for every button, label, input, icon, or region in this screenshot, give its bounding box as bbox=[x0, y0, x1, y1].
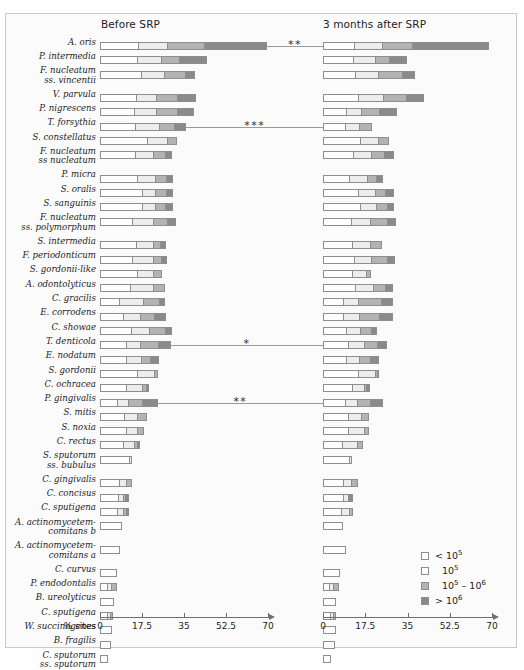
bar-segment bbox=[333, 583, 339, 591]
stacked-bar bbox=[323, 123, 372, 131]
stacked-bar bbox=[100, 123, 186, 131]
bar-segment bbox=[353, 56, 375, 64]
bar-segment bbox=[361, 413, 368, 421]
bar-segment bbox=[341, 508, 349, 516]
axis-arrow-icon bbox=[269, 614, 275, 620]
bar-segment bbox=[155, 175, 166, 183]
significance-asterisks: ** bbox=[233, 398, 247, 406]
bar-segment bbox=[100, 399, 117, 407]
bar-segment bbox=[379, 108, 397, 116]
stacked-bar bbox=[323, 137, 389, 145]
species-label-line2: comitans b bbox=[0, 527, 96, 537]
bar-segment bbox=[100, 370, 137, 378]
bar-segment bbox=[348, 413, 361, 421]
bar-segment bbox=[366, 384, 370, 392]
stacked-bar bbox=[323, 175, 383, 183]
stacked-bar bbox=[100, 108, 194, 116]
bar-segment bbox=[165, 151, 172, 159]
bar-segment bbox=[100, 583, 107, 591]
significance-connector: ** bbox=[267, 42, 323, 50]
bar-segment bbox=[125, 494, 129, 502]
bar-segment bbox=[349, 175, 367, 183]
stacked-bar bbox=[323, 270, 371, 278]
bar-segment bbox=[323, 203, 360, 211]
bar-segment bbox=[100, 479, 119, 487]
axis-tick bbox=[365, 613, 366, 617]
legend-swatch bbox=[421, 567, 429, 575]
plot-after-srp bbox=[323, 40, 492, 608]
bar-segment bbox=[167, 218, 175, 226]
bar-segment bbox=[364, 427, 369, 435]
species-label: F. periodonticum bbox=[0, 251, 96, 261]
bar-segment bbox=[323, 494, 343, 502]
bar-segment bbox=[100, 522, 122, 530]
bar-segment bbox=[100, 384, 126, 392]
bar-segment bbox=[345, 399, 357, 407]
bar-segment bbox=[389, 56, 407, 64]
bar-segment bbox=[370, 218, 387, 226]
bar-segment bbox=[385, 189, 393, 197]
bar-segment bbox=[371, 256, 387, 264]
bar-segment bbox=[323, 298, 343, 306]
bar-segment bbox=[100, 137, 147, 145]
stacked-bar bbox=[100, 203, 173, 211]
species-label: S. noxia bbox=[0, 423, 96, 433]
bar-segment bbox=[384, 151, 394, 159]
bar-segment bbox=[375, 189, 386, 197]
bar-segment bbox=[343, 313, 359, 321]
bar-segment bbox=[161, 256, 167, 264]
bar-segment bbox=[323, 456, 349, 464]
species-label: C. sputigena bbox=[0, 503, 96, 513]
bar-segment bbox=[100, 313, 123, 321]
bar-segment bbox=[377, 341, 387, 349]
bar-segment bbox=[323, 356, 346, 364]
bar-segment bbox=[136, 241, 153, 249]
bar-segment bbox=[136, 94, 156, 102]
bar-segment bbox=[323, 175, 349, 183]
bar-segment bbox=[142, 203, 155, 211]
species-label: S. constellatus bbox=[0, 133, 96, 143]
bar-segment bbox=[117, 399, 128, 407]
x-axis-before: 017.53552.570 bbox=[100, 617, 270, 643]
species-label-line2: ss nucleatum bbox=[0, 156, 96, 166]
bar-segment bbox=[323, 137, 360, 145]
axis-line bbox=[323, 617, 495, 618]
bar-segment bbox=[158, 341, 171, 349]
bar-segment bbox=[387, 256, 395, 264]
bar-segment bbox=[381, 298, 393, 306]
bar-segment bbox=[345, 123, 359, 131]
bar-segment bbox=[147, 137, 167, 145]
axis-tick-label: 70 bbox=[486, 621, 497, 631]
species-label: C. rectus bbox=[0, 437, 96, 447]
stacked-bar bbox=[100, 370, 158, 378]
bar-segment bbox=[126, 356, 140, 364]
bar-segment bbox=[100, 175, 137, 183]
bar-segment bbox=[360, 327, 371, 335]
bar-segment bbox=[358, 370, 375, 378]
bar-segment bbox=[323, 479, 343, 487]
bar-segment bbox=[366, 270, 371, 278]
species-label: S. gordonii bbox=[0, 366, 96, 376]
species-label: F. nucleatumss. polymorphum bbox=[0, 213, 96, 232]
bar-segment bbox=[342, 441, 356, 449]
bar-segment bbox=[349, 494, 353, 502]
stacked-bar bbox=[323, 284, 393, 292]
species-label: T. forsythia bbox=[0, 118, 96, 128]
stacked-bar bbox=[100, 56, 207, 64]
stacked-bar bbox=[323, 313, 393, 321]
panel-title-after: 3 months after SRP bbox=[323, 18, 426, 30]
stacked-bar bbox=[100, 508, 129, 516]
significance-connector: * bbox=[171, 341, 323, 349]
bar-segment bbox=[323, 399, 345, 407]
stacked-bar bbox=[323, 341, 387, 349]
species-label: P. gingivalis bbox=[0, 394, 96, 404]
bar-segment bbox=[143, 298, 159, 306]
stacked-bar bbox=[100, 284, 165, 292]
bar-segment bbox=[137, 370, 154, 378]
bar-segment bbox=[360, 203, 376, 211]
bar-segment bbox=[135, 123, 159, 131]
bar-segment bbox=[100, 341, 126, 349]
bar-segment bbox=[126, 384, 142, 392]
bar-segment bbox=[100, 441, 123, 449]
bar-segment bbox=[141, 356, 151, 364]
